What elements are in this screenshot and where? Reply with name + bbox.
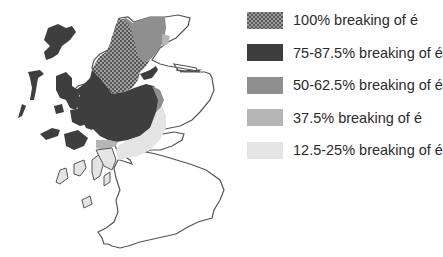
swatch-lightest: [247, 142, 283, 159]
legend-item-37: 37.5% breaking of é: [247, 108, 438, 128]
swatch-dark: [247, 44, 283, 61]
swatch-medium: [247, 77, 283, 94]
scotland-map: [0, 0, 240, 257]
legend-label: 75-87.5% breaking of é: [293, 45, 443, 61]
legend-item-100: 100% breaking of é: [247, 10, 438, 30]
legend-item-12-25: 12.5-25% breaking of é: [247, 140, 438, 160]
legend-label: 50-62.5% breaking of é: [293, 77, 443, 93]
swatch-light: [247, 109, 283, 126]
legend-label: 12.5-25% breaking of é: [293, 142, 443, 158]
swatch-checkered: [247, 12, 283, 29]
legend-item-50-62: 50-62.5% breaking of é: [247, 75, 438, 95]
legend: 100% breaking of é 75-87.5% breaking of …: [247, 10, 438, 173]
legend-label: 37.5% breaking of é: [293, 110, 422, 126]
region-37-caithness: [162, 34, 170, 46]
legend-label: 100% breaking of é: [293, 12, 418, 28]
legend-item-75-87: 75-87.5% breaking of é: [247, 43, 438, 63]
southwest-islands: [56, 148, 116, 208]
